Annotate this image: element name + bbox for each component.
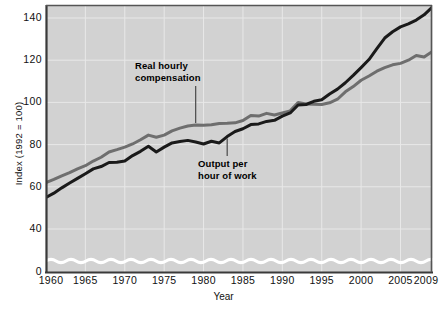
x-axis-title: Year — [0, 291, 447, 302]
y-axis-tick-140: 140 — [2, 11, 42, 23]
plot-background — [46, 5, 432, 272]
y-axis-tick-60: 60 — [2, 180, 42, 192]
y-axis-tick-labels: 0406080100120140 — [0, 0, 42, 310]
chart-figure: Index (1992 = 100) 0406080100120140 — [0, 0, 447, 310]
y-axis-tick-100: 100 — [2, 95, 42, 107]
y-axis-tick-80: 80 — [2, 138, 42, 150]
annotation-real-hourly-compensation: Real hourly compensation — [135, 60, 245, 83]
x-axis-tick-labels: 1960196519701975198019851990199520002005… — [0, 274, 447, 290]
axis-break-wave — [46, 259, 446, 262]
y-axis-tick-40: 40 — [2, 222, 42, 234]
plot-area — [0, 0, 447, 310]
annotation-output-per-hour-of-work: Output per hour of work — [198, 158, 308, 181]
x-axis-tick-2009: 2009 — [403, 274, 447, 286]
y-axis-tick-120: 120 — [2, 53, 42, 65]
